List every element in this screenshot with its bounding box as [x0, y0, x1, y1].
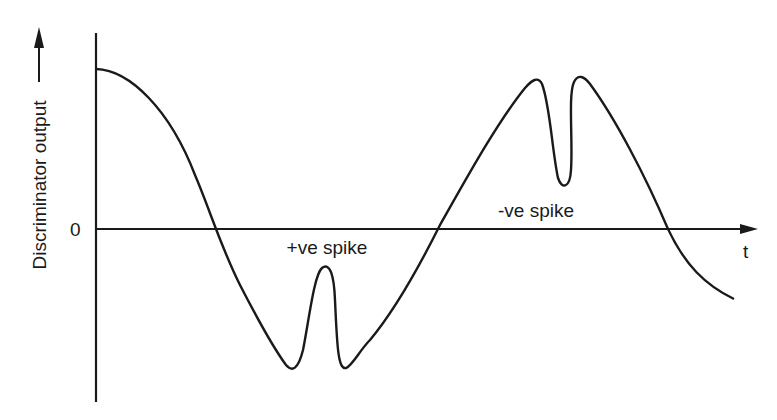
discriminator-waveform-diagram: Discriminator output 0 t +ve spike -ve s… [0, 0, 777, 420]
negative-spike-label: -ve spike [498, 200, 574, 221]
y-axis-label: Discriminator output [29, 100, 50, 270]
x-axis-label: t [743, 241, 749, 262]
positive-spike-label: +ve spike [287, 237, 368, 258]
waveform-curve [96, 69, 734, 369]
x-axis-arrow-icon [740, 224, 758, 234]
y-label-arrow-icon [34, 27, 44, 48]
origin-label: 0 [70, 219, 81, 240]
